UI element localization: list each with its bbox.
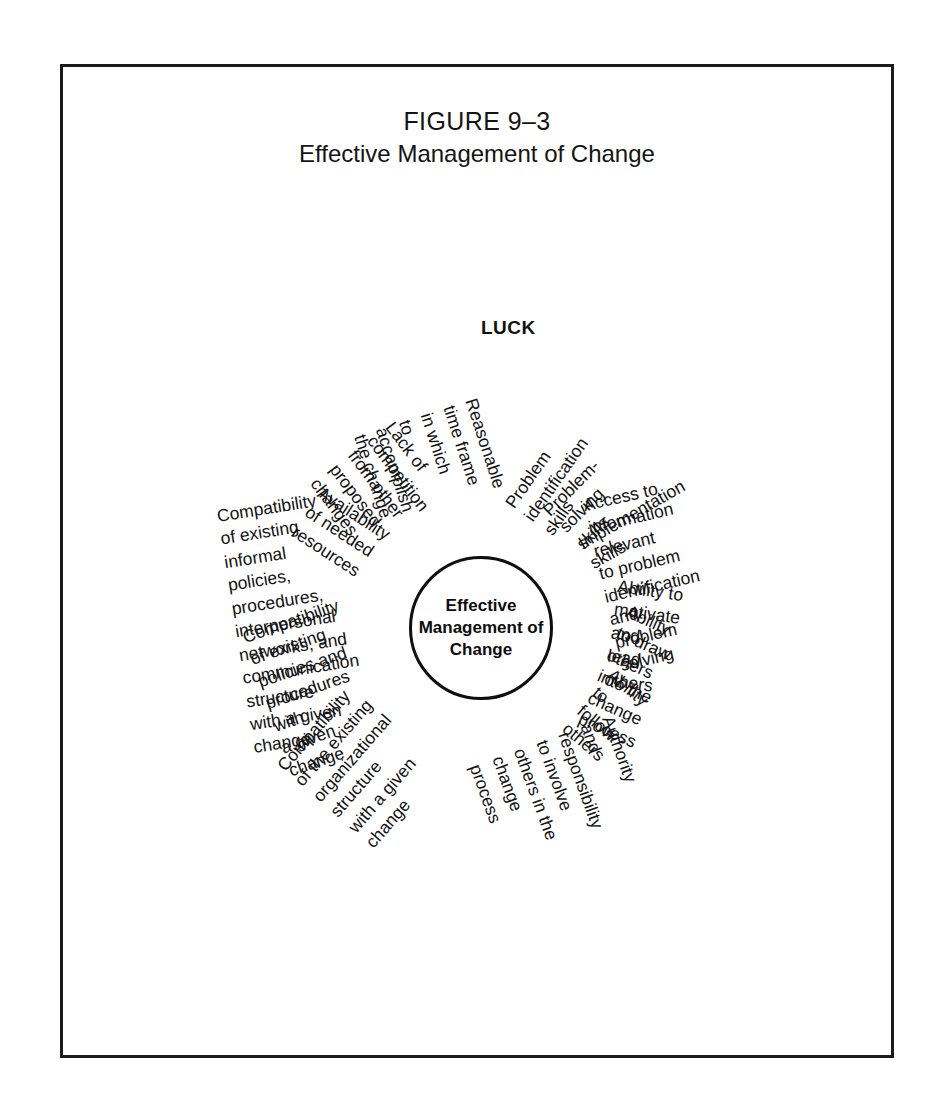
figure-frame: FIGURE 9–3 Effective Management of Chang… bbox=[60, 64, 894, 1058]
spoke-label-luck: LUCK bbox=[481, 315, 536, 340]
spoke-label-authority-and-responsibility: Authority and responsibility to involve … bbox=[464, 713, 653, 864]
spoke-label-reasonable-time-frame: Reasonable time frame in which to accomp… bbox=[348, 395, 511, 527]
radial-diagram: Effective Management of Change LUCKProbl… bbox=[63, 67, 897, 1061]
center-hub-circle: Effective Management of Change bbox=[409, 556, 553, 700]
center-hub-label: Effective Management of Change bbox=[412, 595, 550, 660]
